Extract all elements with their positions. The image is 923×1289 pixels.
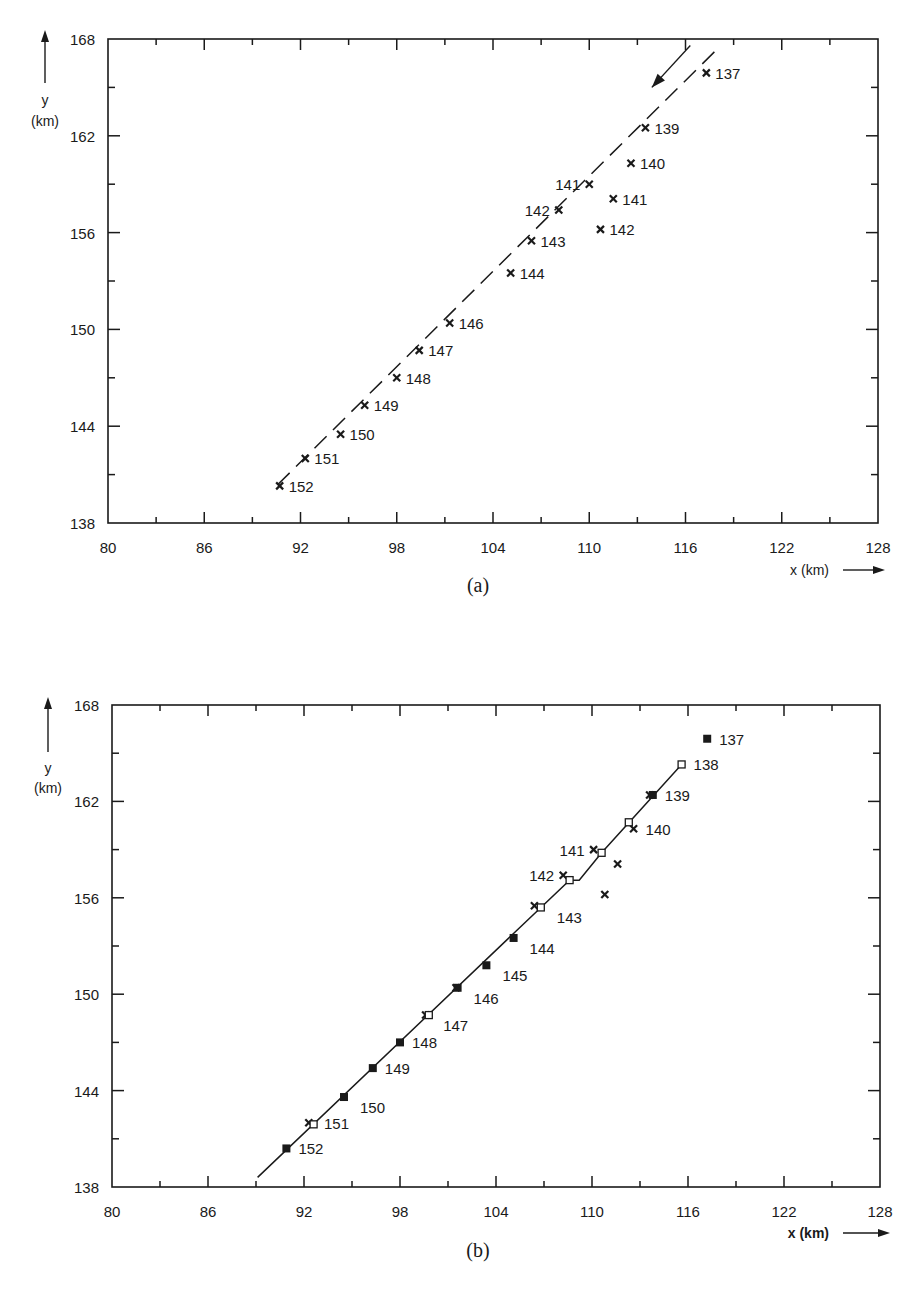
x-marker [302, 455, 309, 462]
x-marker [703, 69, 710, 76]
x-marker [642, 124, 649, 131]
filled-square-marker [369, 1064, 377, 1072]
solid-track-line [258, 764, 682, 1177]
point-label: 142 [525, 202, 550, 219]
x-marker [597, 226, 604, 233]
point-label: 144 [520, 265, 545, 282]
y-tick-label: 156 [74, 890, 99, 907]
x-tick-label: 92 [296, 1203, 313, 1220]
x-tick-label: 86 [200, 1203, 217, 1220]
plot-frame [112, 705, 880, 1187]
x-tick-label: 98 [392, 1203, 409, 1220]
x-axis-arrow-icon [843, 566, 885, 574]
x-tick-label: 110 [580, 1203, 604, 1220]
x-marker [627, 160, 634, 167]
point-label: 141 [622, 191, 647, 208]
y-tick-label: 162 [70, 128, 95, 145]
x-marker [361, 402, 368, 409]
point-label: 151 [324, 1115, 349, 1132]
chart-panel-b: 8086929810411011612212813814415015616216… [44, 697, 893, 1237]
point-label: 138 [694, 756, 719, 773]
point-label: 139 [665, 787, 690, 804]
y-tick-label: 144 [70, 418, 95, 435]
x-marker [590, 846, 597, 853]
point-label: 150 [350, 426, 375, 443]
open-square-marker [678, 761, 685, 768]
point-label: 145 [502, 967, 527, 984]
filled-square-marker [510, 934, 518, 942]
x-marker [601, 891, 608, 898]
y-axis-label-b: y [45, 760, 52, 776]
x-tick-label: 80 [104, 1203, 121, 1220]
x-marker [416, 347, 423, 354]
y-axis-unit-a: (km) [31, 113, 59, 129]
point-label: 149 [385, 1060, 410, 1077]
point-label: 137 [715, 65, 740, 82]
point-label: 143 [557, 909, 582, 926]
filled-square-marker [703, 735, 711, 743]
point-label: 152 [298, 1140, 323, 1157]
x-axis-arrow-icon [843, 1229, 890, 1237]
x-tick-label: 116 [674, 539, 698, 556]
x-tick-label: 122 [771, 1203, 796, 1220]
x-marker [337, 431, 344, 438]
y-axis-arrow-icon [44, 697, 52, 752]
x-tick-label: 128 [867, 1203, 892, 1220]
point-label: 142 [529, 867, 554, 884]
open-square-marker [310, 1121, 317, 1128]
figure-canvas: 8086929810411011612212813814415015616216… [0, 0, 923, 1289]
y-tick-label: 168 [74, 697, 99, 714]
caption-b: (b) [466, 1239, 489, 1262]
x-tick-label: 92 [292, 539, 309, 556]
dashed-track-line [272, 52, 715, 491]
x-marker [393, 374, 400, 381]
point-label: 147 [443, 1017, 468, 1034]
point-label: 143 [541, 233, 566, 250]
x-axis-label-a: x (km) [790, 562, 829, 578]
open-square-marker [425, 1012, 432, 1019]
y-tick-label: 138 [74, 1179, 99, 1196]
point-label: 139 [654, 120, 679, 137]
y-tick-label: 150 [70, 321, 95, 338]
x-marker [507, 269, 514, 276]
x-marker [610, 195, 617, 202]
y-tick-label: 168 [70, 31, 95, 48]
caption-a: (a) [467, 574, 489, 597]
x-tick-label: 86 [196, 539, 213, 556]
y-tick-label: 150 [74, 986, 99, 1003]
open-square-marker [566, 877, 573, 884]
x-tick-label: 110 [577, 539, 601, 556]
point-label: 146 [474, 990, 499, 1007]
x-tick-label: 116 [676, 1203, 700, 1220]
point-label: 150 [360, 1099, 385, 1116]
point-label: 144 [530, 940, 555, 957]
plot-frame [108, 39, 878, 523]
point-label: 140 [640, 155, 665, 172]
point-label: 147 [428, 342, 453, 359]
filled-square-marker [282, 1144, 290, 1152]
point-label: 146 [459, 315, 484, 332]
filled-square-marker [340, 1093, 348, 1101]
open-square-marker [598, 849, 605, 856]
x-marker [614, 861, 621, 868]
x-marker [586, 181, 593, 188]
point-label: 141 [560, 842, 585, 859]
point-label: 148 [412, 1034, 437, 1051]
filled-square-marker [396, 1038, 404, 1046]
y-tick-label: 138 [70, 515, 95, 532]
x-marker [555, 207, 562, 214]
y-axis-unit-b: (km) [34, 780, 62, 796]
x-tick-label: 128 [865, 539, 890, 556]
point-label: 149 [374, 397, 399, 414]
point-label: 152 [289, 478, 314, 495]
point-label: 140 [646, 821, 671, 838]
filled-square-marker [649, 791, 657, 799]
open-square-marker [625, 819, 632, 826]
y-tick-label: 156 [70, 225, 95, 242]
point-label: 137 [719, 731, 744, 748]
x-marker [446, 319, 453, 326]
x-tick-label: 98 [388, 539, 405, 556]
x-axis-label-b: x (km) [788, 1225, 829, 1241]
y-tick-label: 144 [74, 1083, 99, 1100]
x-tick-label: 104 [480, 539, 505, 556]
